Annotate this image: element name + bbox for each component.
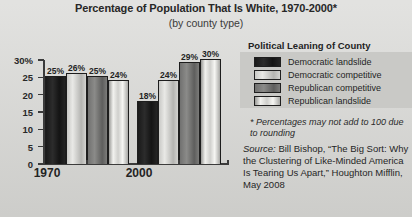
- x-tick-label-1970: 1970: [2, 166, 92, 180]
- legend-item-label: Democratic competitive: [288, 70, 382, 80]
- y-tick-mark: [38, 77, 44, 79]
- legend-swatch-icon: [254, 70, 281, 80]
- y-tick-mark: [38, 129, 44, 131]
- legend-item[interactable]: Republican landslide: [254, 95, 371, 106]
- y-tick-mark: [38, 163, 44, 165]
- bar-value-label: 30%: [202, 49, 219, 59]
- y-tick-mark: [38, 146, 44, 148]
- y-tick-label: 25: [22, 72, 33, 83]
- chart-page: Percentage of Population That Is White, …: [0, 0, 412, 217]
- bar: 25%: [45, 76, 66, 164]
- bar-value-label: 24%: [110, 70, 127, 80]
- x-tick-label-2000: 2000: [94, 166, 184, 180]
- bar-group: 25%26%25%24%: [45, 60, 131, 164]
- source-note: Source: Bill Bishop, “The Big Sort: Why …: [243, 143, 411, 192]
- bar: 26%: [66, 73, 87, 164]
- bar: 25%: [87, 76, 108, 164]
- legend-swatch-icon: [254, 57, 281, 67]
- y-tick-label: 5: [28, 141, 33, 152]
- y-tick-mark: [38, 94, 44, 96]
- y-tick-label: 20: [22, 89, 33, 100]
- bar: 30%: [200, 59, 221, 164]
- legend-item-label: Democratic landslide: [288, 57, 372, 67]
- y-tick-mark: [38, 111, 44, 113]
- legend-item-label: Republican competitive: [288, 83, 381, 93]
- x-tick-mark: [178, 160, 180, 165]
- chart-subtitle: (by county type): [0, 17, 412, 29]
- y-axis-labels: 30%2520151050: [0, 60, 38, 164]
- bar-value-label: 18%: [139, 91, 156, 101]
- y-tick-label: 30%: [14, 55, 33, 66]
- bar-value-label: 24%: [160, 70, 177, 80]
- x-tick-mark-end: [227, 160, 229, 165]
- bar-value-label: 26%: [68, 63, 85, 73]
- legend-swatch-icon: [254, 96, 281, 106]
- chart-title: Percentage of Population That Is White, …: [0, 2, 412, 14]
- footnote: * Percentages may not add to 100 due to …: [250, 117, 410, 140]
- plot-area: 30%2520151050 25%26%25%24%18%24%29%30% 1…: [0, 60, 232, 190]
- legend-item-label: Republican landslide: [288, 96, 371, 106]
- bar: 24%: [108, 80, 129, 164]
- y-tick-label: 15: [22, 107, 33, 118]
- bar: 18%: [137, 101, 158, 164]
- bar: 24%: [158, 80, 179, 164]
- legend-item[interactable]: Democratic landslide: [254, 56, 372, 67]
- y-tick-label: 10: [22, 124, 33, 135]
- bar-group: 18%24%29%30%: [137, 60, 223, 164]
- legend-title: Political Leaning of County: [248, 40, 370, 51]
- bar-groups: 25%26%25%24%18%24%29%30%: [45, 60, 228, 164]
- source-label: Source:: [243, 143, 276, 154]
- bar: 29%: [179, 62, 200, 164]
- bar-value-label: 25%: [47, 66, 64, 76]
- bar-value-label: 29%: [181, 52, 198, 62]
- legend-item[interactable]: Republican competitive: [254, 82, 381, 93]
- x-tick-mark: [86, 160, 88, 165]
- legend-item[interactable]: Democratic competitive: [254, 69, 382, 80]
- legend-panel: Democratic landslideDemocratic competiti…: [240, 52, 412, 108]
- y-tick-mark: [38, 59, 44, 61]
- bar-value-label: 25%: [89, 66, 106, 76]
- legend-swatch-icon: [254, 83, 281, 93]
